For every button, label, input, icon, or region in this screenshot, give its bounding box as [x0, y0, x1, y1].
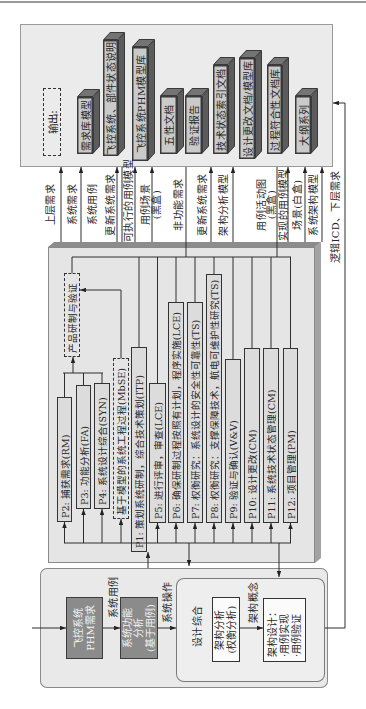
- flow-label-activity-diagram: 用例活动图(黑盒): [257, 167, 278, 242]
- output-item-label: 设计更改文档/模型库: [240, 60, 255, 156]
- output-item-process-compliance-library: 过程符合性文档库: [267, 65, 282, 154]
- feedback-label-icd: 逻辑ICD、下层需求: [330, 170, 341, 263]
- output-item-label: 飞控系统PHM模型库: [133, 55, 148, 154]
- process-p10: P10: 设计更改(CM): [244, 348, 260, 523]
- flow-label-system-use-cases: 系统用例: [87, 167, 98, 242]
- process-p8: P8: 权衡研究：支撑保障技术，航电可维护性研究(TS): [206, 274, 222, 523]
- page-header-rule: [0, 2, 366, 4]
- flow-label-system-requirements: 系统需求: [67, 167, 78, 242]
- arrow-label-system-use-cases: 系统用例: [108, 577, 119, 618]
- process-panel: 产品研制与验证 P2: 捕获需求(RM) P3: 功能分析(FA) P4: 系统…: [48, 247, 315, 563]
- flow-label-executable-use-case-model: 可执行的用例模型: [123, 167, 134, 242]
- flow-label-non-functional-requirements: 非功能需求: [173, 167, 184, 242]
- output-item-label: 飞控系统、部件状态说明: [103, 41, 118, 154]
- process-p4: P4: 系统设计综合(SYN): [94, 383, 110, 509]
- flow-label-updated-requirements: 更新系统需求: [105, 167, 116, 242]
- output-item-label: 技术状态索引文档: [213, 68, 228, 150]
- output-item-phm-model-library: 飞控系统PHM模型库: [132, 47, 148, 161]
- arrow-label-architecture-concept: 架构概念: [248, 582, 259, 623]
- architecture-analysis-box: 架构分析 (权衡分析): [212, 597, 240, 662]
- output-item-label: 大纲系列: [296, 104, 311, 145]
- arrow-label-system-operations: 系统操作: [162, 582, 173, 623]
- output-item-system-status-spec: 飞控系统、部件状态说明: [103, 40, 118, 156]
- output-item-verification-report: 验证报告: [185, 96, 202, 154]
- flow-label-upper-requirements: 上层需求: [45, 167, 56, 242]
- function-analysis-box: 系统功能 分析 (基于用例): [120, 597, 158, 659]
- output-item-requirements-model: 需求库模型: [77, 97, 93, 154]
- output-panel: 输出: 需求库模型 飞控系统、部件状态说明 飞控系统PHM模型库 五性文档 验证…: [20, 24, 333, 167]
- output-item-label: 五性文档: [161, 104, 176, 145]
- process-p3: P3: 功能分析(FA): [76, 385, 91, 509]
- output-title-box: 输出:: [43, 88, 61, 156]
- output-item-design-change-library: 设计更改文档/模型库: [239, 58, 255, 159]
- diagram-canvas: 输出: 需求库模型 飞控系统、部件状态说明 飞控系统PHM模型库 五性文档 验证…: [0, 0, 366, 709]
- flow-label-system-architecture-model: 系统架构模型: [308, 167, 319, 242]
- process-p9: P9: 验证与确认(V&V): [225, 359, 241, 523]
- process-p12: P12: 项目管理(PM): [283, 348, 298, 523]
- process-p5: P5: 进行评审，审查(LCE): [149, 383, 166, 523]
- flow-label-architecture-analysis-model: 架构分析模型: [218, 167, 229, 242]
- output-item-five-properties-doc: 五性文档: [160, 96, 177, 154]
- process-p6: P6: 确保研制过程按照有计划，程序实施(LCE): [168, 302, 184, 523]
- design-synthesis-title: 设计综合: [192, 606, 203, 647]
- design-synthesis-panel: 设计综合 架构分析 (权衡分析) 架构概念 架构设计： ·用例实现 ·用例验证: [176, 578, 325, 682]
- process-p7: P7: 权衡研究：系统设计的安全性可靠性(TS): [187, 302, 203, 523]
- output-item-config-index-doc: 技术状态索引文档: [213, 65, 228, 154]
- phm-requirements-box: 飞控系统 PHM需求: [66, 597, 103, 659]
- output-item-label: 过程符合性文档库: [267, 68, 282, 150]
- output-item-outline-series: 大纲系列: [295, 96, 311, 154]
- process-p1: P1: 策划系统研制，综合技术策划(ITP): [131, 347, 147, 552]
- process-p11: P11: 系统技术状态管理(CM): [263, 348, 279, 523]
- flow-label-updated-requirements-2: 更新系统需求: [197, 167, 208, 242]
- architecture-design-box: 架构设计： ·用例实现 ·用例验证: [263, 598, 306, 662]
- process-p2: P2: 捕获需求(RM): [57, 397, 72, 522]
- product-development-group: 产品研制与验证: [64, 273, 80, 357]
- mbse-process: 基于模型的系统工程过程(MbSE): [113, 358, 129, 519]
- output-item-label: 需求库模型: [78, 100, 93, 152]
- output-item-label: 验证报告: [186, 104, 201, 145]
- flow-label-white-box-scenarios: 场景(白盒): [292, 167, 303, 242]
- flow-label-use-case-scenarios: 用例场景(黑盒): [141, 167, 162, 242]
- design-panel: 飞控系统 PHM需求 系统用例 系统功能 分析 (基于用例) 系统操作 设计综合…: [40, 568, 328, 688]
- output-title: 输出:: [45, 110, 60, 134]
- flow-label-realized-use-case-model: 实现的用例模型: [278, 167, 289, 242]
